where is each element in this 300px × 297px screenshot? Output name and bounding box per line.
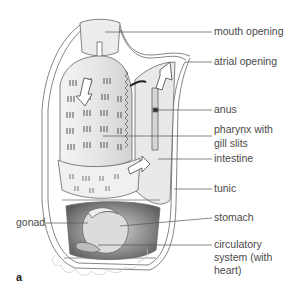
gut-cavity	[62, 200, 160, 260]
label-gonad: gonad	[16, 216, 45, 229]
label-intestine: intestine	[214, 152, 253, 165]
label-pharynx-line1: pharynx with	[214, 123, 273, 136]
tunicate-diagram: mouth opening atrial opening anus pharyn…	[0, 0, 300, 297]
label-atrial-opening: atrial opening	[214, 55, 277, 68]
label-stomach: stomach	[214, 211, 254, 224]
oral-siphon	[80, 19, 120, 62]
label-pharynx-line2: gill slits	[214, 137, 248, 150]
label-circulatory-line2: system (with	[214, 251, 272, 264]
label-anus: anus	[214, 103, 237, 116]
label-mouth-opening: mouth opening	[214, 25, 283, 38]
pharynx-basket	[60, 56, 132, 167]
label-circulatory-line3: heart)	[214, 264, 241, 277]
label-circulatory-line1: circulatory	[214, 238, 262, 251]
label-tunic: tunic	[214, 182, 236, 195]
panel-letter: a	[16, 271, 22, 283]
